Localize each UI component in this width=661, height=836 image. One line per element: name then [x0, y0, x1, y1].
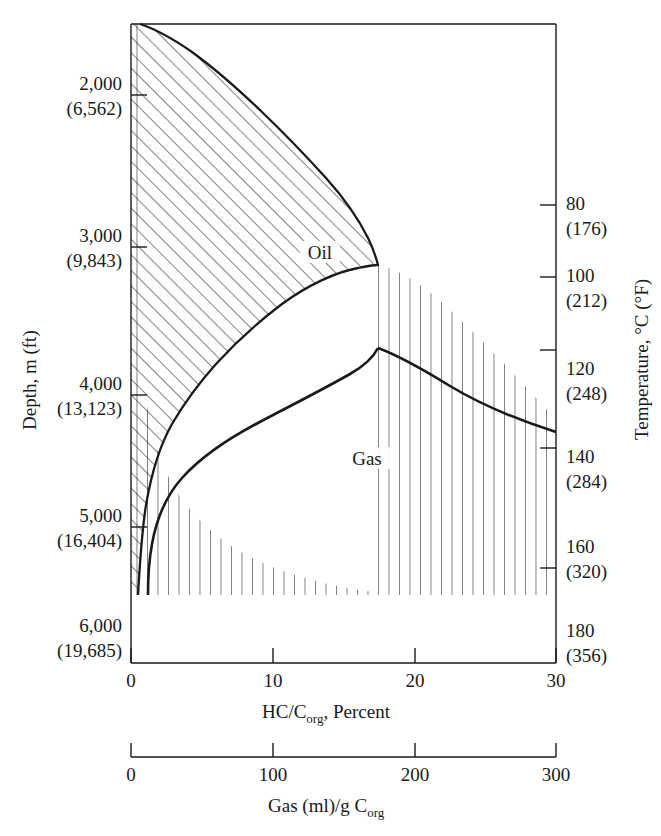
- left-tick-label-3000-m: 3,000: [79, 225, 122, 246]
- right-tick-label-180-f: (356): [566, 645, 607, 667]
- left-axis-title: Depth, m (ft): [19, 330, 41, 430]
- right-tick-label-80-c: 80: [566, 193, 585, 214]
- bottom-tick-label-30: 30: [547, 670, 566, 691]
- right-tick-label-100-c: 100: [566, 265, 595, 286]
- gas-region-label-group: Gas: [343, 447, 391, 469]
- secondary-axis-title-sub: org: [367, 805, 385, 820]
- bottom-axis-title-tail: , Percent: [323, 701, 390, 722]
- left-tick-label-4000-m: 4,000: [79, 373, 122, 394]
- left-tick-label-5000-m: 5,000: [79, 505, 122, 526]
- right-tick-label-120-f: (248): [566, 383, 607, 405]
- bottom-axis-ticks: [131, 648, 556, 663]
- bottom-axis-title-main: HC/C: [262, 701, 306, 722]
- right-tick-label-140-f: (284): [566, 471, 607, 493]
- bottom-tick-label-0: 0: [126, 670, 136, 691]
- left-tick-label-2000-ft: (6,562): [67, 98, 122, 120]
- secondary-axis-title: Gas (ml)/g Corg: [268, 795, 385, 820]
- right-tick-label-180-c: 180: [566, 620, 595, 641]
- gas-region-label: Gas: [352, 448, 382, 469]
- bottom-axis-title: HC/Corg, Percent: [262, 701, 391, 726]
- bottom-axis-title-sub: org: [306, 711, 324, 726]
- bottom-tick-label-10: 10: [264, 670, 283, 691]
- bottom-tick-label-20: 20: [406, 670, 425, 691]
- right-tick-label-160-f: (320): [566, 561, 607, 583]
- oil-gas-generation-chart: 2,000 (6,562) 3,000 (9,843) 4,000 (13,12…: [0, 0, 661, 836]
- secondary-axis-title-main: Gas (ml)/g C: [268, 795, 367, 817]
- right-tick-label-160-c: 160: [566, 536, 595, 557]
- secondary-axis-tick-labels: 0 100 200 300: [126, 764, 570, 785]
- oil-region-label-group: Oil: [300, 241, 340, 263]
- left-tick-label-6000-ft: (19,685): [57, 640, 122, 662]
- left-tick-label-2000-m: 2,000: [79, 73, 122, 94]
- left-tick-label-5000-ft: (16,404): [57, 530, 122, 552]
- svg-text:HC/Corg, Percent: HC/Corg, Percent: [262, 701, 391, 726]
- gas-tick-label-200: 200: [401, 764, 430, 785]
- right-axis-title: Temperature, °C (°F): [631, 279, 653, 440]
- gas-tick-label-300: 300: [542, 764, 571, 785]
- gas-tick-label-0: 0: [126, 764, 136, 785]
- right-axis-labels: 80 (176) 100 (212) 120 (248) 140 (284) 1…: [566, 193, 607, 667]
- bottom-axis-tick-labels: 0 10 20 30: [126, 670, 565, 691]
- oil-region-label: Oil: [308, 242, 332, 263]
- secondary-gas-axis: [131, 743, 556, 757]
- right-tick-label-120-c: 120: [566, 358, 595, 379]
- svg-text:Gas (ml)/g Corg: Gas (ml)/g Corg: [268, 795, 385, 820]
- left-tick-label-3000-ft: (9,843): [67, 250, 122, 272]
- left-axis-labels: 2,000 (6,562) 3,000 (9,843) 4,000 (13,12…: [57, 73, 122, 662]
- left-tick-label-6000-m: 6,000: [79, 615, 122, 636]
- gas-tick-label-100: 100: [259, 764, 288, 785]
- right-tick-label-140-c: 140: [566, 446, 595, 467]
- right-tick-label-100-f: (212): [566, 290, 607, 312]
- right-tick-label-80-f: (176): [566, 218, 607, 240]
- left-tick-label-4000-ft: (13,123): [57, 398, 122, 420]
